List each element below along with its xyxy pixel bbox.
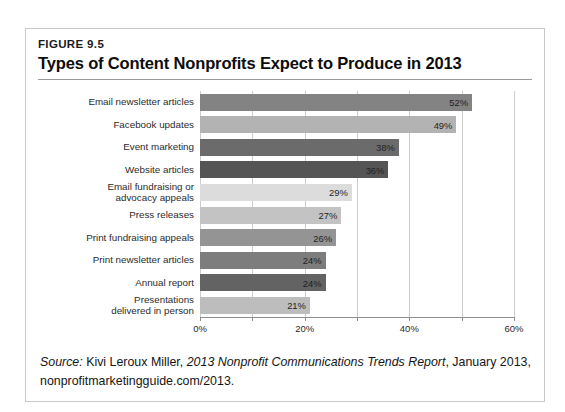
x-axis-tick [409, 317, 410, 321]
bar[interactable]: 24% [200, 252, 326, 269]
chart-row: Press releases27% [26, 204, 546, 227]
bar-value-label: 52% [449, 97, 468, 108]
bar[interactable]: 21% [200, 297, 310, 314]
bar-value-label: 27% [319, 210, 338, 221]
bar[interactable]: 36% [200, 161, 388, 178]
bar-value-label: 24% [303, 277, 322, 288]
chart-row: Email newsletter articles52% [26, 91, 546, 114]
bar[interactable]: 26% [200, 229, 336, 246]
category-label-line: Print newsletter articles [34, 254, 194, 265]
category-label-line: Email newsletter articles [34, 96, 194, 107]
chart-row: Website articles36% [26, 159, 546, 182]
category-label: Facebook updates [34, 119, 194, 130]
chart-row: Annual report24% [26, 272, 546, 295]
figure-number: FIGURE 9.5 [38, 37, 532, 51]
x-axis-tick [252, 317, 253, 321]
chart-row: Print fundraising appeals26% [26, 227, 546, 250]
x-axis-tick [305, 317, 306, 321]
bar[interactable]: 49% [200, 116, 456, 133]
category-label: Email newsletter articles [34, 96, 194, 107]
figure-header: FIGURE 9.5 Types of Content Nonprofits E… [38, 37, 532, 73]
category-label: Website articles [34, 164, 194, 175]
chart-row: Event marketing38% [26, 136, 546, 159]
bar-value-label: 36% [366, 164, 385, 175]
chart-row: Facebook updates49% [26, 114, 546, 137]
bar-chart: 0%20%40%60%Email newsletter articles52%F… [26, 85, 546, 347]
category-label-line: advocacy appeals [34, 192, 194, 203]
category-label: Print newsletter articles [34, 254, 194, 265]
category-label: Presentationsdelivered in person [34, 294, 194, 317]
bar[interactable]: 38% [200, 139, 399, 156]
x-axis-tick [514, 317, 515, 321]
x-axis-tick [462, 317, 463, 321]
x-axis-label: 40% [400, 323, 419, 334]
category-label-line: Press releases [34, 209, 194, 220]
category-label: Annual report [34, 277, 194, 288]
source-label: Source: [40, 355, 83, 369]
category-label: Print fundraising appeals [34, 232, 194, 243]
category-label-line: Website articles [34, 164, 194, 175]
bar[interactable]: 29% [200, 184, 352, 201]
bar[interactable]: 52% [200, 94, 472, 111]
chart-row: Print newsletter articles24% [26, 249, 546, 272]
source-author: Kivi Leroux Miller, [86, 355, 183, 369]
x-axis-label: 60% [504, 323, 523, 334]
category-label-line: Print fundraising appeals [34, 232, 194, 243]
category-label-line: Event marketing [34, 141, 194, 152]
figure-title: Types of Content Nonprofits Expect to Pr… [38, 53, 532, 73]
figure-frame: FIGURE 9.5 Types of Content Nonprofits E… [25, 28, 545, 402]
source-url: nonprofitmarketingguide.com/2013. [40, 374, 234, 388]
bar-value-label: 24% [303, 255, 322, 266]
category-label-line: Annual report [34, 277, 194, 288]
category-label-line: Presentations [34, 294, 194, 305]
bar-value-label: 26% [313, 232, 332, 243]
chart-row: Presentationsdelivered in person21% [26, 294, 546, 317]
bar-value-label: 38% [376, 142, 395, 153]
category-label: Press releases [34, 209, 194, 220]
bar[interactable]: 27% [200, 207, 341, 224]
chart-row: Email fundraising oradvocacy appeals29% [26, 181, 546, 204]
category-label: Event marketing [34, 141, 194, 152]
x-axis-tick [357, 317, 358, 321]
x-axis-label: 20% [295, 323, 314, 334]
bar-value-label: 49% [434, 119, 453, 130]
category-label-line: delivered in person [34, 305, 194, 316]
header-divider [38, 79, 532, 80]
bar-value-label: 21% [287, 300, 306, 311]
x-axis-tick [200, 317, 201, 321]
source-publication: 2013 Nonprofit Communications Trends Rep… [187, 355, 446, 369]
source-date: , January 2013, [445, 355, 530, 369]
source-note: Source: Kivi Leroux Miller, 2013 Nonprof… [40, 353, 536, 391]
x-axis-label: 0% [193, 323, 207, 334]
category-label-line: Facebook updates [34, 119, 194, 130]
category-label-line: Email fundraising or [34, 181, 194, 192]
category-label: Email fundraising oradvocacy appeals [34, 181, 194, 204]
bar[interactable]: 24% [200, 274, 326, 291]
bar-value-label: 29% [329, 187, 348, 198]
